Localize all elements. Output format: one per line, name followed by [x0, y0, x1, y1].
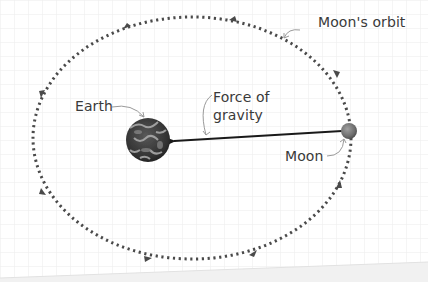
orbit-label: Moon's orbit [318, 14, 405, 30]
moon-label: Moon [285, 148, 323, 164]
force-of-gravity-label-line2: gravity [213, 107, 263, 123]
earth-label: Earth [75, 98, 113, 114]
orbit-diagram: Moon's orbit Earth Force of gravity Moon [0, 0, 428, 282]
moon-icon [341, 123, 357, 139]
force-of-gravity-label-line1: Force of [213, 89, 270, 105]
earth-icon [126, 118, 170, 162]
